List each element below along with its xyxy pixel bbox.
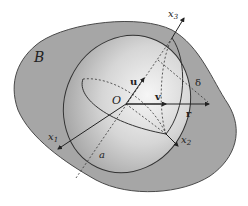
region-b-label: B bbox=[33, 49, 44, 65]
origin-label: O bbox=[112, 94, 121, 107]
ellipsoid-diagram: B O x3 x1 x2 u v r δ a bbox=[0, 0, 248, 206]
diagram-canvas: B O x3 x1 x2 u v r δ a bbox=[0, 0, 248, 206]
delta-label: δ bbox=[195, 77, 201, 88]
u-vector-label: u bbox=[130, 76, 137, 87]
semi-axis-a-label: a bbox=[99, 149, 105, 160]
x3-axis-label: x3 bbox=[168, 8, 179, 21]
r-vector-label: r bbox=[186, 108, 192, 119]
v-vector-label: v bbox=[154, 91, 162, 102]
